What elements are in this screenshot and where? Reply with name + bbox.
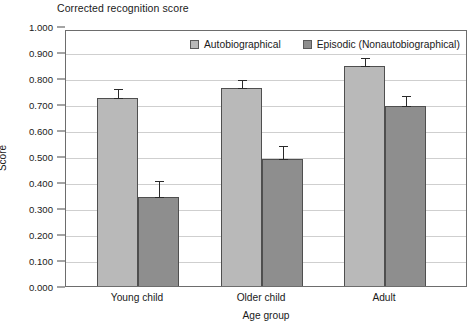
error-bar-cap — [114, 89, 123, 90]
y-axis-tick-mark — [57, 235, 65, 236]
error-bar-cap — [155, 197, 164, 198]
error-bar — [406, 96, 407, 106]
error-bar-cap — [279, 146, 288, 147]
chart-title: Corrected recognition score — [57, 2, 189, 14]
y-axis-tick-mark — [57, 183, 65, 184]
error-bar-cap — [361, 66, 370, 67]
error-bar-cap — [238, 80, 247, 81]
bar — [138, 197, 179, 287]
y-axis-tick-mark — [57, 287, 65, 288]
error-bar-cap — [114, 98, 123, 99]
y-axis-tick-mark — [57, 53, 65, 54]
error-bar — [242, 80, 243, 88]
y-axis-title: Score — [0, 145, 8, 171]
y-axis-tick-label: 0.500 — [29, 152, 53, 163]
y-axis-tick-mark — [57, 209, 65, 210]
error-bar-cap — [402, 106, 411, 107]
error-bar — [118, 89, 119, 98]
y-axis-tick-mark — [57, 261, 65, 262]
gridline — [66, 54, 466, 55]
error-bar-cap — [155, 181, 164, 182]
y-axis-tick-label: 1.000 — [29, 22, 53, 33]
y-axis-tick-mark — [57, 157, 65, 158]
legend-entry-autobiographical: Autobiographical — [190, 39, 281, 50]
y-axis-tick-label: 0.300 — [29, 204, 53, 215]
bar — [344, 66, 385, 287]
legend-label-autobiographical: Autobiographical — [204, 39, 281, 50]
x-axis-tick-label: Young child — [111, 292, 163, 303]
y-axis-tick-mark — [57, 105, 65, 106]
y-axis-tick-label: 0.800 — [29, 74, 53, 85]
y-axis-tick-label: 0.600 — [29, 126, 53, 137]
legend-entry-episodic: Episodic (Nonautobiographical) — [303, 39, 460, 50]
bar-chart-figure: Corrected recognition score 0.0000.1000.… — [0, 0, 473, 326]
bar — [221, 88, 262, 287]
chart-legend: Autobiographical Episodic (Nonautobiogra… — [190, 39, 460, 50]
y-axis-tick-label: 0.400 — [29, 178, 53, 189]
x-axis-tick-label: Older child — [237, 292, 286, 303]
y-axis: 0.0000.1000.2000.3000.4000.5000.6000.700… — [0, 0, 65, 326]
y-axis-tick-mark — [57, 27, 65, 28]
legend-label-episodic: Episodic (Nonautobiographical) — [317, 39, 460, 50]
bar — [262, 159, 303, 287]
y-axis-tick-label: 0.900 — [29, 48, 53, 59]
y-axis-tick-label: 0.000 — [29, 282, 53, 293]
legend-swatch-autobiographical — [190, 40, 199, 49]
gridline — [66, 80, 466, 81]
x-axis-title: Age group — [242, 310, 289, 321]
error-bar-cap — [402, 96, 411, 97]
plot-area — [65, 30, 467, 287]
error-bar — [159, 181, 160, 197]
y-axis-tick-label: 0.700 — [29, 100, 53, 111]
bar — [385, 106, 426, 287]
legend-swatch-episodic — [303, 40, 312, 49]
x-axis-tick-label: Adult — [372, 292, 395, 303]
bar — [97, 98, 138, 287]
error-bar-cap — [238, 88, 247, 89]
y-axis-tick-label: 0.100 — [29, 256, 53, 267]
y-axis-tick-mark — [57, 131, 65, 132]
error-bar-cap — [279, 159, 288, 160]
y-axis-tick-label: 0.200 — [29, 230, 53, 241]
error-bar-cap — [361, 58, 370, 59]
y-axis-tick-mark — [57, 79, 65, 80]
error-bar — [365, 58, 366, 66]
error-bar — [283, 146, 284, 159]
